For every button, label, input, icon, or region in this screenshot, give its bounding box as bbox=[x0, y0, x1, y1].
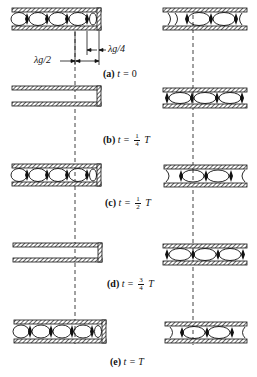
panel-tag: (a) bbox=[103, 68, 115, 79]
panel-tag: (c) bbox=[105, 197, 116, 208]
period-symbol: T bbox=[148, 278, 154, 289]
dimension-lines bbox=[60, 31, 106, 65]
time-fraction: 34 bbox=[138, 277, 144, 292]
panel-tag: (e) bbox=[110, 356, 121, 367]
time-fraction: 14 bbox=[134, 133, 140, 148]
right-guide-d bbox=[163, 244, 247, 265]
time-prefix: t = bbox=[122, 278, 134, 289]
right-guide-b bbox=[163, 88, 247, 108]
time-value: T bbox=[138, 356, 144, 367]
panel-tag: (b) bbox=[103, 134, 115, 145]
left-guide-e bbox=[13, 320, 106, 343]
period-symbol: T bbox=[144, 134, 150, 145]
time-value: 0 bbox=[132, 68, 137, 79]
time-prefix: t = bbox=[124, 356, 136, 367]
panel-label-c: (c) t = 12 T bbox=[105, 196, 151, 211]
time-prefix: t = bbox=[117, 68, 129, 79]
time-prefix: t = bbox=[119, 197, 131, 208]
left-guide-d bbox=[13, 243, 102, 262]
right-guide-c bbox=[164, 165, 247, 187]
left-guide-b bbox=[12, 86, 101, 106]
panel-label-b: (b) t = 14 T bbox=[103, 133, 150, 148]
half-wavelength-label: λg/2 bbox=[34, 54, 51, 65]
time-prefix: t = bbox=[118, 134, 130, 145]
panel-label-e: (e) t = T bbox=[110, 356, 144, 367]
quarter-wavelength-label: λg/4 bbox=[108, 43, 125, 54]
panel-label-d: (d) t = 34 T bbox=[107, 277, 154, 292]
time-fraction: 12 bbox=[135, 196, 141, 211]
right-guide-e bbox=[165, 322, 247, 343]
left-guide-c bbox=[11, 164, 101, 186]
left-guide-a bbox=[11, 8, 101, 30]
right-guide-a bbox=[163, 8, 247, 30]
period-symbol: T bbox=[145, 197, 151, 208]
panel-label-a: (a) t = 0 bbox=[103, 68, 137, 79]
panel-tag: (d) bbox=[107, 278, 119, 289]
